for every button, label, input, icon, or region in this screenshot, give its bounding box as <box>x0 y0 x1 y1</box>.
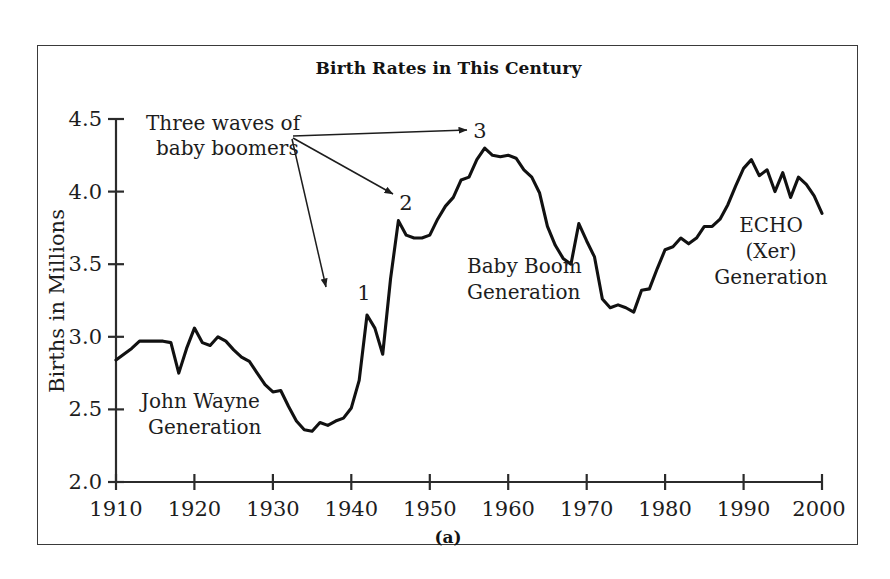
wave-label-1: 1 <box>357 281 370 305</box>
y-tick-label-4-0: 4.0 <box>69 180 102 204</box>
figure-subcaption: (a) <box>434 527 461 546</box>
x-tick-label-1980: 1980 <box>638 497 691 521</box>
baby-boom-label-line2: Generation <box>467 280 580 304</box>
wave-label-3: 3 <box>473 119 486 143</box>
wave-label-2: 2 <box>399 191 412 215</box>
waves-callout-line1: Three waves of <box>146 111 302 135</box>
x-tick-label-1920: 1920 <box>168 497 221 521</box>
arrow-to-wave-3 <box>293 130 467 136</box>
x-tick-label-1950: 1950 <box>403 497 456 521</box>
x-tick-label-1910: 1910 <box>89 497 142 521</box>
y-tick-label-4-5: 4.5 <box>69 107 102 131</box>
echo-label-line3: Generation <box>714 265 827 289</box>
y-tick-label-3-0: 3.0 <box>69 325 102 349</box>
john-wayne-label-line2: Generation <box>148 415 261 439</box>
page-canvas: Birth Rates in This Century 2.0 2.5 3.0 … <box>0 0 890 579</box>
x-tick-label-1970: 1970 <box>560 497 613 521</box>
x-tick-label-1960: 1960 <box>481 497 534 521</box>
baby-boom-label-line1: Baby Boom <box>467 254 582 278</box>
x-tick-label-2000: 2000 <box>792 497 845 521</box>
x-tick-label-1930: 1930 <box>246 497 299 521</box>
y-tick-label-2-0: 2.0 <box>69 470 102 494</box>
birth-rates-line-chart: 2.0 2.5 3.0 3.5 4.0 4.5 Births in Millio… <box>38 46 859 546</box>
echo-label-line2: (Xer) <box>745 239 796 263</box>
john-wayne-label-line1: John Wayne <box>139 389 260 413</box>
echo-label-line1: ECHO <box>739 213 803 237</box>
y-tick-label-3-5: 3.5 <box>69 252 102 276</box>
x-tick-label-1940: 1940 <box>325 497 378 521</box>
x-tick-label-1990: 1990 <box>717 497 770 521</box>
waves-callout-line2: baby boomers <box>156 136 299 160</box>
arrow-to-wave-1 <box>292 139 326 287</box>
arrow-to-wave-2 <box>293 138 393 194</box>
y-tick-label-2-5: 2.5 <box>69 397 102 421</box>
figure-frame: Birth Rates in This Century 2.0 2.5 3.0 … <box>37 45 858 545</box>
page-edge-margin <box>0 520 12 570</box>
y-axis-label: Births in Millions <box>45 209 69 393</box>
